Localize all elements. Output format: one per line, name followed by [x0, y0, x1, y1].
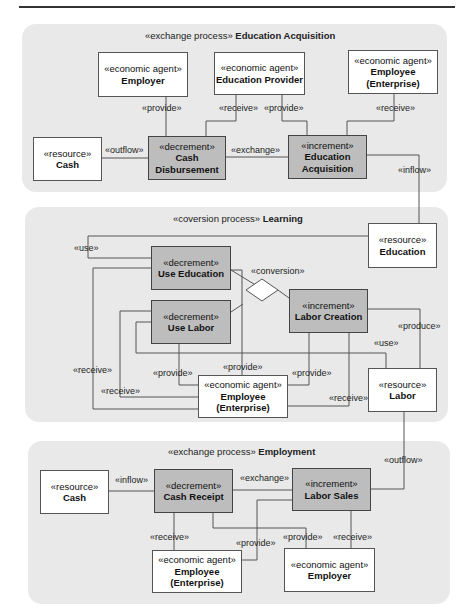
label-provide: «provide» [283, 532, 323, 542]
node-labor-sales[interactable]: «increment» Labor Sales [292, 468, 371, 511]
label-exchange: «exchange» [240, 473, 289, 483]
node-cash[interactable]: «resource» Cash [33, 137, 102, 181]
node-employee-enterprise-employment[interactable]: «economic agent» Employee (Enterprise) [152, 550, 242, 593]
label-use: «use» [374, 338, 399, 348]
node-labor[interactable]: «resource» Labor [368, 368, 437, 412]
node-labor-creation[interactable]: «increment» Labor Creation [289, 289, 368, 333]
label-provide: «provide» [236, 538, 276, 548]
label-outflow: «outflow» [384, 455, 423, 465]
node-use-education[interactable]: «decrement» Use Education [151, 246, 231, 290]
label-use: «use» [74, 243, 99, 253]
label-inflow: «inflow» [398, 165, 431, 175]
node-cash-disbursement[interactable]: «decrement» Cash Disbursement [148, 136, 226, 180]
node-cash-receipt[interactable]: «decrement» Cash Receipt [154, 469, 233, 513]
label-provide: «provide» [264, 103, 304, 113]
label-exchange: «exchange» [231, 145, 280, 155]
node-employee-enterprise-learning[interactable]: «economic agent» Employee (Enterprise) [198, 375, 288, 418]
node-employer-employment[interactable]: «economic agent» Employer [284, 548, 375, 592]
label-provide: «provide» [153, 368, 193, 378]
label-receive: «receive» [333, 532, 372, 542]
node-education-provider[interactable]: «economic agent» Education Provider [214, 52, 305, 95]
label-receive: «receive» [73, 365, 112, 375]
label-receive: «receive» [150, 532, 189, 542]
label-conversion: «conversion» [251, 266, 305, 276]
label-provide: «provide» [292, 368, 332, 378]
node-use-labor[interactable]: «decrement» Use Labor [151, 300, 231, 344]
label-outflow: «outflow» [105, 145, 144, 155]
node-employee-enterprise[interactable]: «economic agent» Employee (Enterprise) [348, 50, 438, 94]
label-receive: «receive» [329, 393, 368, 403]
label-provide: «provide» [142, 103, 182, 113]
label-receive: «receive» [219, 103, 258, 113]
label-provide: «provide» [223, 362, 263, 372]
node-education-acquisition[interactable]: «increment» Education Acquisition [288, 135, 367, 179]
label-inflow: «inflow» [115, 475, 148, 485]
label-receive: «receive» [101, 386, 140, 396]
node-employer[interactable]: «economic agent» Employer [98, 52, 188, 97]
node-cash-employment[interactable]: «resource» Cash [40, 470, 109, 514]
node-education[interactable]: «resource» Education [368, 223, 437, 268]
label-produce: «produce» [398, 321, 441, 331]
label-receive: «receive» [376, 103, 415, 113]
